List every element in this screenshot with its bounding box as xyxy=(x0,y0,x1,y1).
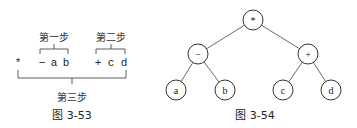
caption-3-54: 图 3-54 xyxy=(235,106,274,122)
node-plus-label: + xyxy=(305,49,311,60)
node-d-label: d xyxy=(329,85,334,96)
expression-tree: * − + a b c d xyxy=(0,0,357,128)
node-a-label: a xyxy=(174,85,179,96)
node-minus-label: − xyxy=(195,49,201,60)
node-root-label: * xyxy=(251,15,256,26)
node-c-label: c xyxy=(281,85,286,96)
node-b-label: b xyxy=(223,85,228,96)
